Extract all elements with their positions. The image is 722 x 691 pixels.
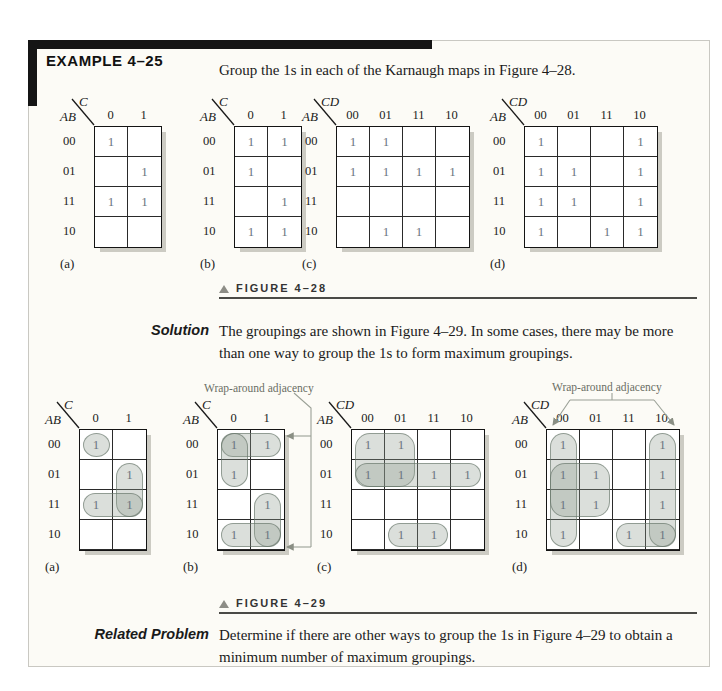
kmap-side-variable: AB — [200, 109, 216, 125]
kmap-one: 1 — [398, 437, 405, 453]
kmap-one: 1 — [264, 437, 271, 453]
kmap-column-label: 10 — [645, 411, 678, 426]
kmap-column-label: 00 — [524, 108, 557, 123]
figure-4-29-caption: FIGURE 4–29 — [219, 597, 327, 609]
kmap-column-label: 10 — [450, 411, 483, 426]
kmap-cell: 1 — [235, 127, 268, 157]
kmap-row-label: 00 — [512, 429, 546, 459]
kmap-column-label: 0 — [234, 108, 267, 123]
kmap-one: 1 — [126, 467, 133, 483]
kmap-one: 1 — [637, 164, 644, 180]
kmap-one: 1 — [108, 134, 115, 150]
kmap-letter-label: (a) — [45, 559, 59, 575]
kmap-row-labels: 00011110 — [60, 126, 94, 248]
solution-label: Solution — [124, 322, 209, 338]
kmap-side-variable: AB — [512, 412, 528, 428]
kmap-row: 111 — [525, 217, 657, 247]
example-title: EXAMPLE 4–25 — [46, 52, 163, 69]
kmap-cell — [558, 127, 591, 157]
kmap-cell: 1 — [370, 217, 403, 247]
kmap-one: 1 — [281, 224, 288, 240]
kmap-one: 1 — [637, 224, 644, 240]
kmap-one: 1 — [416, 164, 423, 180]
kmap-one: 1 — [248, 134, 255, 150]
kmap-one: 1 — [464, 467, 471, 483]
kmap-row-label: 01 — [200, 156, 234, 186]
kmap-one: 1 — [626, 527, 633, 543]
figure-4-28: CAB01000111101111(a) CAB0100011110111111… — [29, 96, 709, 314]
kmap-one: 1 — [538, 164, 545, 180]
kmap-cell: 1 — [624, 217, 657, 247]
kmap-grid-cells: 1111 — [94, 126, 162, 248]
kmap-row — [352, 490, 484, 520]
kmap-fig28-b: CAB0100011110111111(b) — [200, 96, 302, 248]
kmap-body: 0001111011111111 — [317, 429, 485, 551]
kmap-row-label: 10 — [490, 216, 524, 246]
kmap-column-label: 1 — [127, 108, 160, 123]
kmap-cell: 1 — [337, 157, 370, 187]
kmap-row-label: 00 — [183, 429, 217, 459]
kmap-grid-cells: 11111111 — [351, 429, 485, 551]
kmap-one: 1 — [538, 224, 545, 240]
kmap-one: 1 — [637, 194, 644, 210]
kmap-grid-cells: 11111111111 — [546, 429, 680, 551]
kmap-fig28-d: CDAB000111100001111011111111111(d) — [490, 96, 658, 248]
kmap-grid: 111111 — [234, 126, 302, 248]
kmap-side-variable: AB — [60, 109, 76, 125]
kmap-column-label: 01 — [384, 411, 417, 426]
kmap-row-label: 10 — [45, 519, 79, 549]
kmap-one: 1 — [571, 194, 578, 210]
kmap-row-label: 11 — [490, 186, 524, 216]
kmap-grid-cells: 111111 — [217, 429, 285, 551]
kmap-cell: 1 — [403, 157, 436, 187]
kmap-cell: 1 — [337, 127, 370, 157]
kmap-one: 1 — [248, 224, 255, 240]
kmap-fig29-a: CAB01000111101111(a) — [45, 399, 147, 551]
kmap-cell — [580, 520, 613, 550]
kmap-fig29-b: CAB0100011110111111(b) — [183, 399, 285, 551]
kmap-cell: 1 — [436, 157, 469, 187]
kmap-one: 1 — [141, 194, 148, 210]
kmap-one: 1 — [281, 194, 288, 210]
example-intro: Group the 1s in each of the Karnaugh map… — [219, 62, 697, 79]
kmap-column-label: 01 — [557, 108, 590, 123]
kmap-cell — [451, 490, 484, 520]
kmap-one: 1 — [416, 224, 423, 240]
kmap-cell — [580, 430, 613, 460]
kmap-one: 1 — [431, 527, 438, 543]
kmap-cell: 1 — [268, 217, 301, 247]
kmap-row-labels: 00011110 — [490, 126, 524, 248]
kmap-grid-cells: 11111111 — [336, 126, 470, 248]
kmap-one: 1 — [281, 134, 288, 150]
kmap-cell — [403, 127, 436, 157]
kmap-row — [95, 217, 161, 247]
kmap-cell: 1 — [591, 217, 624, 247]
kmap-row: 111 — [525, 187, 657, 217]
kmap-one: 1 — [93, 497, 100, 513]
kmap-row: 11 — [235, 127, 301, 157]
kmap-column-label: 01 — [369, 108, 402, 123]
kmap-row — [80, 520, 146, 550]
kmap-cell — [218, 490, 251, 520]
wrap-around-label-b: Wrap-around adjacency — [204, 382, 314, 394]
kmap-row: 11 — [95, 187, 161, 217]
kmap-row-label: 01 — [45, 459, 79, 489]
kmap-top-variable: C — [79, 94, 88, 110]
kmap-row-labels: 00011110 — [512, 429, 546, 551]
kmap-cell — [113, 430, 146, 460]
kmap-cell — [80, 520, 113, 550]
kmap-one: 1 — [126, 497, 133, 513]
example-header-bar — [28, 40, 432, 49]
kmap-cell — [95, 157, 128, 187]
kmap-column-label: 11 — [417, 411, 450, 426]
kmap-row-label: 00 — [302, 126, 336, 156]
kmap-cell — [128, 217, 161, 247]
kmap-one: 1 — [560, 437, 567, 453]
kmap-one: 1 — [383, 134, 390, 150]
kmap-cell — [235, 187, 268, 217]
kmap-letter-label: (b) — [200, 256, 215, 272]
wrap-around-label-d: Wrap-around adjacency — [552, 381, 662, 393]
kmap-cell — [80, 460, 113, 490]
kmap-one: 1 — [231, 437, 238, 453]
kmap-one: 1 — [604, 224, 611, 240]
